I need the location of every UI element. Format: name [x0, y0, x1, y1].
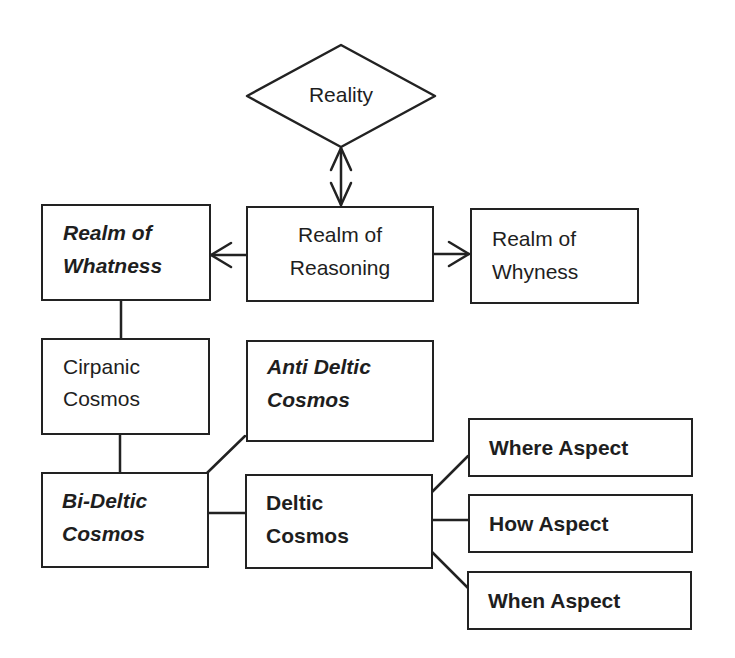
- node-label-line-2: Cosmos: [62, 517, 145, 550]
- node-label-line-2: Cosmos: [267, 383, 350, 416]
- node-label: How Aspect: [489, 507, 608, 540]
- node-label-line-1: Deltic: [266, 486, 323, 519]
- node-cirpanic-cosmos: Cirpanic Cosmos: [41, 338, 210, 435]
- node-realm-of-whyness: Realm of Whyness: [470, 208, 639, 304]
- node-label-line-1: Bi-Deltic: [62, 484, 147, 517]
- node-anti-deltic-cosmos: Anti Deltic Cosmos: [246, 340, 434, 442]
- node-realm-of-reasoning: Realm of Reasoning: [246, 206, 434, 302]
- node-bi-deltic-cosmos: Bi-Deltic Cosmos: [41, 472, 209, 568]
- node-label-line-1: Cirpanic: [63, 350, 140, 383]
- node-label-line-2: Reasoning: [248, 251, 432, 284]
- node-label: When Aspect: [488, 584, 620, 617]
- node-deltic-cosmos: Deltic Cosmos: [245, 474, 433, 569]
- node-how-aspect: How Aspect: [468, 494, 693, 553]
- node-when-aspect: When Aspect: [467, 571, 692, 630]
- node-label-line-1: Realm of: [63, 216, 152, 249]
- node-label-line-1: Realm of: [248, 218, 432, 251]
- node-label-line-2: Cosmos: [266, 519, 349, 552]
- node-label-line-2: Whatness: [63, 249, 162, 282]
- node-label: Where Aspect: [489, 431, 628, 464]
- node-label-line-1: Anti Deltic: [267, 350, 371, 383]
- node-reality: Reality: [247, 83, 435, 107]
- node-realm-of-whatness: Realm of Whatness: [41, 204, 211, 301]
- node-label-line-2: Cosmos: [63, 382, 140, 415]
- node-label-line-2: Whyness: [492, 255, 578, 288]
- node-where-aspect: Where Aspect: [468, 418, 693, 477]
- node-label-line-1: Realm of: [492, 222, 576, 255]
